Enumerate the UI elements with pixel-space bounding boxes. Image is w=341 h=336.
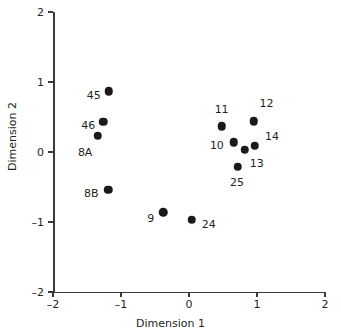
data-point xyxy=(105,87,114,96)
x-tick-mark xyxy=(256,292,258,297)
data-point-label: 25 xyxy=(230,177,244,188)
data-point xyxy=(234,162,243,171)
y-tick-label: 0 xyxy=(14,147,44,158)
data-point-label: 14 xyxy=(265,131,279,142)
x-tick-mark xyxy=(52,292,54,297)
x-tick-mark xyxy=(188,292,190,297)
data-point xyxy=(249,117,258,126)
x-tick-label: –1 xyxy=(106,299,136,310)
y-tick-label: –1 xyxy=(14,217,44,228)
x-tick-mark xyxy=(324,292,326,297)
data-point-label: 10 xyxy=(210,140,224,151)
data-point xyxy=(99,118,108,127)
scatter-plot: 210–1–2 –2–1012 45468A8B924111210141325 … xyxy=(0,0,341,336)
y-tick-mark xyxy=(48,11,53,13)
y-axis-title: Dimension 2 xyxy=(6,77,19,197)
x-tick-label: –2 xyxy=(38,299,68,310)
y-tick-label: 1 xyxy=(14,77,44,88)
data-point-label: 13 xyxy=(250,158,264,169)
data-point-label: 8B xyxy=(84,188,99,199)
data-point xyxy=(187,216,196,225)
data-point xyxy=(104,186,113,195)
data-point-label: 46 xyxy=(81,120,95,131)
data-point-label: 12 xyxy=(260,98,274,109)
y-tick-mark xyxy=(48,151,53,153)
data-point xyxy=(241,146,250,155)
data-point-label: 8A xyxy=(78,147,93,158)
x-tick-label: 1 xyxy=(242,299,272,310)
y-tick-label: 2 xyxy=(14,7,44,18)
data-point xyxy=(230,138,239,147)
y-tick-mark xyxy=(48,221,53,223)
data-point-label: 11 xyxy=(215,104,229,115)
x-tick-label: 0 xyxy=(174,299,204,310)
x-tick-mark xyxy=(120,292,122,297)
x-axis-title: Dimension 1 xyxy=(0,317,341,330)
data-point-label: 45 xyxy=(87,90,101,101)
x-tick-label: 2 xyxy=(310,299,340,310)
y-tick-mark xyxy=(48,81,53,83)
y-tick-label: –2 xyxy=(14,287,44,298)
data-point-label: 9 xyxy=(147,213,154,224)
data-point xyxy=(159,208,168,217)
data-point xyxy=(217,122,226,131)
data-point xyxy=(251,141,260,150)
data-point xyxy=(94,132,103,141)
y-axis-line xyxy=(53,12,55,293)
data-point-label: 24 xyxy=(202,219,216,230)
